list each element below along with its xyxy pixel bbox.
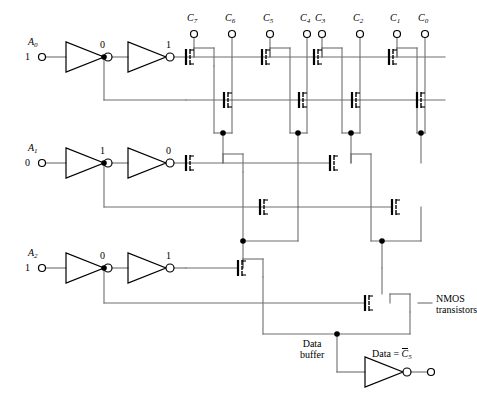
inv1-out-a0: 0 [100,39,105,50]
data-buffer-label: Data buffer [300,338,324,360]
nmos-a1-right [330,155,338,171]
label-c7: C7 [187,12,197,25]
terminal-c2[interactable] [357,31,364,38]
label-c6: C6 [225,12,235,25]
terminal-c7[interactable] [191,31,198,38]
input-label-a1: A1 [28,142,38,155]
terminal-c6[interactable] [229,31,236,38]
terminal-c3[interactable] [319,31,326,38]
terminal-c4[interactable] [304,31,311,38]
input-value-a2: 1 [25,262,30,273]
terminal-c1[interactable] [394,31,401,38]
inv2-out-a2: 1 [166,250,171,261]
label-c3: C3 [315,12,325,25]
label-c0: C0 [418,12,428,25]
nmos-a2-upper [238,260,246,276]
inv2-out-a1: 0 [166,145,171,156]
input-value-a1: 0 [25,157,30,168]
input-label-a2: A2 [28,247,38,260]
inv1-out-a2: 0 [100,250,105,261]
terminal-c5[interactable] [267,31,274,38]
label-c5: C5 [263,12,273,25]
label-c2: C2 [353,12,363,25]
nmos-a2-lower [365,295,373,311]
inv1-out-a1: 1 [100,145,105,156]
label-c4: C4 [300,12,310,25]
input-terminal-a1[interactable] [39,160,46,167]
label-c1: C1 [390,12,400,25]
output-terminal-data[interactable] [428,369,435,376]
input-terminal-a2[interactable] [39,265,46,272]
output-label-data: Data = C5 [372,348,412,361]
inverter-data-buffer [365,357,411,387]
input-terminal-a0[interactable] [39,54,46,61]
nmos-transistors-annotation: NMOS transistors [436,293,477,315]
input-value-a0: 1 [25,51,30,62]
terminal-c0[interactable] [422,31,429,38]
input-label-a0: A0 [28,36,38,49]
nmos-a1-lower-right [392,199,400,215]
inv2-out-a0: 1 [166,39,171,50]
